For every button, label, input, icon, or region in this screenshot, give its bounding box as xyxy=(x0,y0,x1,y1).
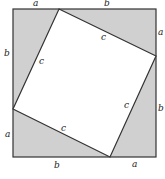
label-right-b: b xyxy=(158,103,164,113)
label-top-a: a xyxy=(33,0,38,8)
label-top-b: b xyxy=(104,0,110,8)
label-right-a: a xyxy=(158,27,163,37)
label-hyp-bottom-left: c xyxy=(61,123,66,133)
label-bottom-b: b xyxy=(54,160,60,170)
label-hyp-bottom-right: c xyxy=(124,100,129,110)
label-left-b: b xyxy=(4,48,10,58)
label-left-a: a xyxy=(5,129,10,139)
label-hyp-top-right: c xyxy=(101,32,106,42)
label-bottom-a: a xyxy=(132,159,137,169)
label-hyp-top-left: c xyxy=(39,56,44,66)
pythagorean-diagram: a b a b b a b a c c c c xyxy=(0,0,165,179)
